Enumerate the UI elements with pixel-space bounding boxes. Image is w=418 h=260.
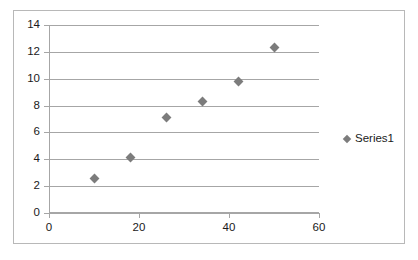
y-tick-label-14: 14 bbox=[27, 19, 40, 31]
y-tick-6 bbox=[44, 132, 49, 133]
y-tick-label-10: 10 bbox=[27, 73, 40, 85]
x-tick-label-0: 0 bbox=[46, 222, 52, 234]
gridline-y-8 bbox=[49, 106, 319, 107]
gridline-y-2 bbox=[49, 186, 319, 187]
data-point bbox=[89, 173, 99, 183]
gridline-y-10 bbox=[49, 79, 319, 80]
legend-label-series1: Series1 bbox=[355, 133, 394, 145]
x-axis-line bbox=[49, 212, 319, 213]
x-tick-0 bbox=[49, 213, 50, 218]
y-tick-12 bbox=[44, 52, 49, 53]
x-tick-40 bbox=[229, 213, 230, 218]
gridline-y-14 bbox=[49, 25, 319, 26]
y-axis-line bbox=[49, 25, 50, 213]
y-tick-2 bbox=[44, 186, 49, 187]
y-tick-10 bbox=[44, 79, 49, 80]
y-tick-label-8: 8 bbox=[34, 100, 40, 112]
legend-diamond-icon bbox=[343, 135, 351, 143]
y-tick-4 bbox=[44, 159, 49, 160]
y-tick-8 bbox=[44, 106, 49, 107]
x-tick-label-20: 20 bbox=[133, 222, 146, 234]
gridline-y-12 bbox=[49, 52, 319, 53]
y-tick-label-4: 4 bbox=[34, 154, 40, 166]
chart-frame: 02468101214 0204060 Series1 bbox=[13, 10, 405, 244]
x-tick-label-60: 60 bbox=[313, 222, 326, 234]
gridline-y-4 bbox=[49, 159, 319, 160]
data-point bbox=[161, 113, 171, 123]
chart-legend: Series1 bbox=[344, 133, 394, 145]
y-tick-label-6: 6 bbox=[34, 127, 40, 139]
gridline-y-0 bbox=[49, 213, 319, 214]
y-tick-label-0: 0 bbox=[34, 207, 40, 219]
gridline-y-6 bbox=[49, 132, 319, 133]
x-tick-label-40: 40 bbox=[223, 222, 236, 234]
x-tick-60 bbox=[319, 213, 320, 218]
plot-area: 02468101214 0204060 bbox=[49, 25, 319, 213]
data-point bbox=[125, 153, 135, 163]
y-tick-label-2: 2 bbox=[34, 180, 40, 192]
x-tick-20 bbox=[139, 213, 140, 218]
y-tick-label-12: 12 bbox=[27, 46, 40, 58]
y-tick-14 bbox=[44, 25, 49, 26]
